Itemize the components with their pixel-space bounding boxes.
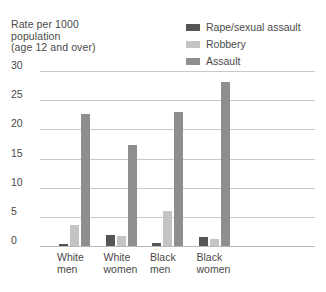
bars-layer: White menWhite womenBlack menBlack women xyxy=(0,0,326,292)
chart-container: Rate per 1000 population (age 12 and ove… xyxy=(0,0,326,292)
bar-rape-1 xyxy=(106,235,115,246)
axis-baseline xyxy=(40,246,315,247)
bar-assault-2 xyxy=(174,112,183,246)
x-axis-label-1: White women xyxy=(104,252,138,275)
x-axis-label-2: Black men xyxy=(150,252,176,275)
bar-rape-3 xyxy=(199,237,208,246)
bar-assault-3 xyxy=(221,82,230,247)
bar-robbery-2 xyxy=(163,211,172,246)
bar-assault-0 xyxy=(81,114,90,246)
bar-robbery-3 xyxy=(210,239,219,246)
x-axis-label-3: Black women xyxy=(197,252,231,275)
bar-robbery-0 xyxy=(70,225,79,246)
bar-assault-1 xyxy=(128,145,137,247)
x-axis-label-0: White men xyxy=(57,252,84,275)
bar-robbery-1 xyxy=(117,236,126,247)
